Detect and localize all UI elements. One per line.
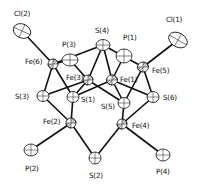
label-s3: S(3) (15, 93, 29, 100)
label-p1: P(1) (123, 34, 137, 41)
atom-p1 (116, 49, 132, 63)
atom-s3 (37, 91, 49, 102)
label-s1: S(1) (81, 96, 95, 103)
label-s2: S(2) (89, 172, 103, 179)
label-fe4: Fe(4) (132, 122, 149, 129)
molecular-structure-diagram: Cl(2)Fe(6)P(3)S(4)P(1)Cl(1)Fe(5)Fe(3)Fe(… (0, 0, 200, 189)
atom-s6 (147, 92, 159, 103)
atom-p3 (62, 54, 78, 66)
atom-s5 (118, 98, 130, 109)
atom-fe2 (66, 118, 76, 128)
label-p3: P(3) (62, 41, 76, 48)
atom-s4 (96, 40, 110, 51)
atom-cl2 (11, 21, 33, 41)
atom-fe1 (107, 75, 118, 85)
label-p4: P(4) (156, 168, 170, 175)
atom-fe3 (83, 75, 93, 85)
label-cl1: Cl(1) (166, 16, 182, 23)
label-s6: S(6) (163, 94, 177, 101)
label-s5: S(5) (101, 103, 115, 110)
atom-fe5 (138, 62, 149, 72)
atom-fe6 (48, 59, 58, 69)
label-p2: P(2) (25, 165, 39, 172)
atom-cl1 (166, 29, 190, 51)
label-cl2: Cl(2) (14, 10, 30, 17)
label-fe2: Fe(2) (43, 118, 60, 125)
label-s4: S(4) (95, 27, 109, 34)
label-fe5: Fe(5) (152, 67, 169, 74)
atom-p4 (156, 149, 170, 161)
label-fe3: Fe(3) (66, 74, 83, 81)
label-fe1: Fe(1) (120, 76, 137, 83)
atom-s2 (89, 152, 101, 164)
atom-s1 (67, 92, 79, 103)
label-fe6: Fe(6) (25, 58, 42, 65)
atom-p2 (24, 144, 38, 156)
atom-fe4 (117, 119, 127, 129)
